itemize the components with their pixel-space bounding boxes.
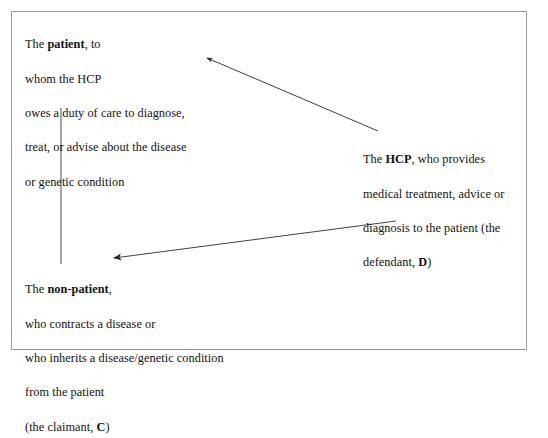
non-patient-node-line-1: The non-patient,: [25, 281, 295, 298]
non-patient-node-line-5: (the claimant, C): [25, 419, 295, 436]
patient-node-line-2: whom the HCP: [25, 71, 285, 88]
hcp-node: The HCP, who provides medical treatment,…: [363, 134, 543, 289]
non-patient-node-line-4: from the patient: [25, 384, 295, 401]
patient-node-line-4: treat, or advise about the disease: [25, 139, 285, 156]
hcp-node-line-3: diagnosis to the patient (the: [363, 220, 543, 237]
hcp-node-line-2: medical treatment, advice or: [363, 186, 543, 203]
patient-node: The patient, to whom the HCP owes a duty…: [25, 19, 285, 208]
patient-node-line-1: The patient, to: [25, 36, 285, 53]
patient-node-line-5: or genetic condition: [25, 174, 285, 191]
hcp-node-line-1: The HCP, who provides: [363, 151, 543, 168]
patient-node-line-3: owes a duty of care to diagnose,: [25, 105, 285, 122]
hcp-node-line-4: defendant, D): [363, 254, 543, 271]
non-patient-node: The non-patient, who contracts a disease…: [25, 264, 295, 438]
non-patient-node-line-2: who contracts a disease or: [25, 316, 295, 333]
non-patient-node-line-3: who inherits a disease/genetic condition: [25, 350, 295, 367]
